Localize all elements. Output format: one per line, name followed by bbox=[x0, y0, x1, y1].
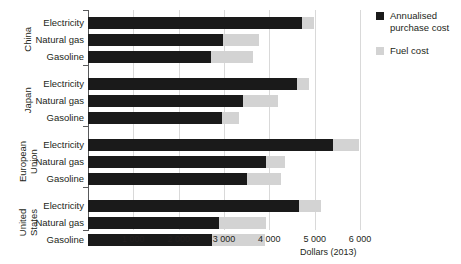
gridline bbox=[269, 10, 270, 230]
category-label: Electricity bbox=[4, 78, 84, 90]
category-label: Gasoline bbox=[4, 51, 84, 63]
bar-segment-purchase-cost bbox=[88, 78, 297, 90]
bar-segment-purchase-cost bbox=[88, 217, 219, 229]
legend-dark-swatch-icon bbox=[376, 12, 384, 20]
bar-segment-purchase-cost bbox=[88, 34, 223, 46]
bar-segment-purchase-cost bbox=[88, 95, 243, 107]
category-label: Gasoline bbox=[4, 112, 84, 124]
bar-segment-fuel-cost bbox=[223, 34, 259, 46]
x-tick-label: 2 000 bbox=[167, 234, 190, 244]
bar-segment-fuel-cost bbox=[219, 217, 267, 229]
legend-label-line1: Annualised bbox=[390, 10, 461, 22]
gridline bbox=[360, 10, 361, 230]
bar-segment-fuel-cost bbox=[266, 156, 285, 168]
x-axis-title: Dollars (2013) bbox=[300, 247, 357, 257]
legend-label-line2: purchase cost bbox=[390, 22, 461, 34]
x-tick-label: 1 000 bbox=[122, 234, 145, 244]
bar-segment-purchase-cost bbox=[88, 112, 222, 124]
group-label: China bbox=[0, 34, 56, 45]
gridline bbox=[315, 10, 316, 230]
x-tick-label: 5 000 bbox=[303, 234, 326, 244]
bar-segment-purchase-cost bbox=[88, 173, 247, 185]
legend-light-swatch-icon bbox=[376, 47, 384, 55]
bar-segment-fuel-cost bbox=[222, 112, 239, 124]
bar-segment-purchase-cost bbox=[88, 234, 212, 246]
x-tick-label: 4 000 bbox=[258, 234, 281, 244]
bar-segment-purchase-cost bbox=[88, 17, 302, 29]
bar-segment-fuel-cost bbox=[211, 51, 253, 63]
legend-item-annualised-purchase-cost: Annualised purchase cost bbox=[376, 10, 461, 33]
bar-segment-fuel-cost bbox=[302, 17, 313, 29]
group-label: UnitedStates bbox=[0, 212, 56, 233]
bar-segment-fuel-cost bbox=[299, 200, 321, 212]
group-label: Japan bbox=[0, 95, 56, 106]
bar-segment-purchase-cost bbox=[88, 51, 211, 63]
bar-segment-fuel-cost bbox=[247, 173, 281, 185]
bar-segment-fuel-cost bbox=[243, 95, 278, 107]
bar-segment-purchase-cost bbox=[88, 139, 333, 151]
bar-segment-purchase-cost bbox=[88, 200, 299, 212]
chart-legend: Annualised purchase cost Fuel cost bbox=[376, 10, 461, 69]
bar-segment-fuel-cost bbox=[333, 139, 358, 151]
x-tick-label: 6 000 bbox=[349, 234, 372, 244]
legend-item-fuel-cost: Fuel cost bbox=[376, 45, 461, 57]
plot-area bbox=[88, 10, 360, 230]
bar-segment-fuel-cost bbox=[297, 78, 309, 90]
group-label: EuropeanUnion bbox=[0, 151, 56, 172]
legend-label-line1: Fuel cost bbox=[390, 45, 461, 57]
bar-chart: ElectricityNatural gasGasolineElectricit… bbox=[0, 0, 461, 264]
bar-segment-purchase-cost bbox=[88, 156, 266, 168]
category-label: Electricity bbox=[4, 17, 84, 29]
x-tick-label: 3 000 bbox=[213, 234, 236, 244]
